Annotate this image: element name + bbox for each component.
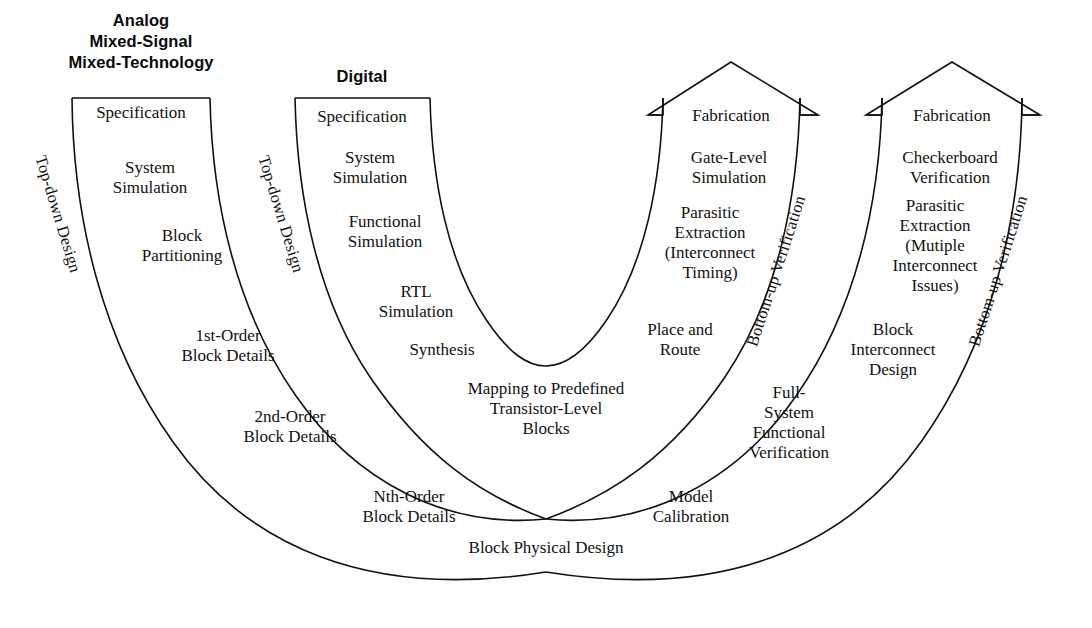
flow-shapes bbox=[0, 0, 1092, 628]
step-fab1-gate-level-simulation: Gate-LevelSimulation bbox=[639, 148, 819, 188]
step-analog-block-physical-design: Block Physical Design bbox=[426, 538, 666, 558]
header-analog: AnalogMixed-SignalMixed-Technology bbox=[0, 10, 282, 73]
step-digital-functional-simulation: FunctionalSimulation bbox=[295, 212, 475, 252]
step-fab1-model-calibration: ModelCalibration bbox=[601, 487, 781, 527]
step-analog-specification: Specification bbox=[51, 103, 231, 123]
step-digital-rtl-simulation: RTLSimulation bbox=[326, 282, 506, 322]
step-fab2-full-system-verification: Full-SystemFunctionalVerification bbox=[699, 383, 879, 463]
step-digital-synthesis: Synthesis bbox=[352, 340, 532, 360]
step-digital-system-simulation: SystemSimulation bbox=[280, 148, 460, 188]
step-analog-system-simulation: SystemSimulation bbox=[60, 158, 240, 198]
step-fab2-checkerboard-verification: CheckerboardVerification bbox=[860, 148, 1040, 188]
step-analog-1st-order: 1st-OrderBlock Details bbox=[138, 326, 318, 366]
step-digital-mapping: Mapping to PredefinedTransistor-LevelBlo… bbox=[416, 379, 676, 439]
step-fab2-block-interconnect-design: BlockInterconnectDesign bbox=[803, 320, 983, 380]
step-fab2-fabrication: Fabrication bbox=[862, 106, 1042, 126]
header-digital: Digital bbox=[282, 66, 442, 87]
step-digital-specification: Specification bbox=[272, 107, 452, 127]
step-analog-nth-order: Nth-OrderBlock Details bbox=[319, 487, 499, 527]
step-analog-block-partitioning: BlockPartitioning bbox=[92, 226, 272, 266]
diagram-canvas: AnalogMixed-SignalMixed-Technology Digit… bbox=[0, 0, 1092, 628]
step-fab1-fabrication: Fabrication bbox=[641, 106, 821, 126]
step-analog-2nd-order: 2nd-OrderBlock Details bbox=[200, 407, 380, 447]
